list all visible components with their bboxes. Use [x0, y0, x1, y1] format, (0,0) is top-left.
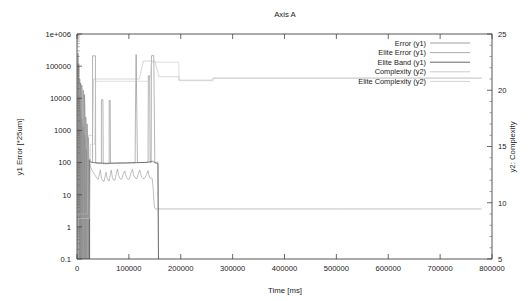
chart-title: Axis A — [274, 10, 296, 19]
axis-a-chart: Axis A 0.11101001000100001000001e+006510… — [0, 0, 530, 301]
x-axis-title: Time [ms] — [268, 286, 302, 295]
y1-tick-label: 1000 — [54, 126, 71, 135]
x-tick-label: 100000 — [116, 264, 141, 273]
legend-label: Elite Complexity (y2) — [358, 77, 426, 86]
x-tick-label: 700000 — [427, 264, 452, 273]
x-tick-label: 400000 — [272, 264, 297, 273]
y1-tick-label: 10 — [63, 191, 71, 200]
legend-label: Elite Error (y1) — [378, 48, 426, 57]
x-tick-label: 600000 — [376, 264, 401, 273]
x-tick-label: 200000 — [168, 264, 193, 273]
legend-label: Error (y1) — [395, 39, 426, 48]
chart-container: Axis A 0.11101001000100001000001e+006510… — [0, 0, 530, 301]
x-tick-label: 300000 — [220, 264, 245, 273]
x-tick-label: 500000 — [324, 264, 349, 273]
y1-tick-label: 100000 — [46, 62, 71, 71]
y2-axis-title: y2: Complexity — [508, 121, 517, 172]
legend-label: Elite Band (y1) — [378, 58, 426, 67]
y2-tick-label: 5 — [498, 255, 502, 264]
y1-tick-label: 1 — [67, 223, 71, 232]
y1-tick-label: 10000 — [50, 94, 71, 103]
legend-label: Complexity (y2) — [375, 67, 426, 76]
y1-axis-title: y1 Error [*25um] — [15, 119, 24, 176]
x-tick-label: 800000 — [479, 264, 504, 273]
y1-tick-label: 100 — [58, 158, 71, 167]
y1-tick-label: 0.1 — [60, 255, 71, 264]
y2-tick-label: 15 — [498, 142, 506, 151]
y2-tick-label: 10 — [498, 199, 506, 208]
y2-tick-label: 20 — [498, 86, 506, 95]
y2-tick-label: 25 — [498, 30, 506, 39]
x-tick-label: 0 — [75, 264, 79, 273]
y1-tick-label: 1e+006 — [45, 30, 71, 39]
